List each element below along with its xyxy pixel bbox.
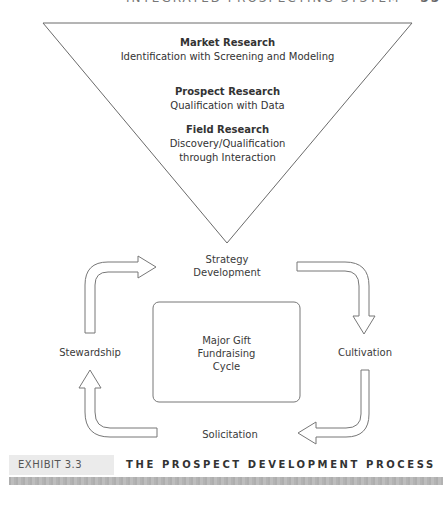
funnel-stage-prospect-research: Prospect Research Qualification with Dat… xyxy=(70,85,385,113)
step-stewardship: Stewardship xyxy=(50,346,130,359)
funnel-stage-subtitle: Discovery/Qualification xyxy=(70,137,385,151)
funnel-stage-field-research: Field Research Discovery/Qualification t… xyxy=(70,123,385,165)
step-label-line: Stewardship xyxy=(50,346,130,359)
funnel-stage-title: Prospect Research xyxy=(70,85,385,99)
center-label-line: Major Gift xyxy=(153,334,300,347)
step-solicitation: Solicitation xyxy=(190,428,270,441)
arrow-solicitation-to-stewardship xyxy=(79,370,157,437)
step-label-line: Strategy xyxy=(177,253,277,266)
step-cultivation: Cultivation xyxy=(325,346,405,359)
cycle-center-label: Major Gift Fundraising Cycle xyxy=(153,334,300,373)
step-label-line: Development xyxy=(177,266,277,279)
arrow-stewardship-to-strategy xyxy=(85,256,156,333)
funnel-stage-market-research: Market Research Identification with Scre… xyxy=(70,36,385,64)
funnel-stage-subtitle: through Interaction xyxy=(70,151,385,165)
exhibit-rule xyxy=(9,477,443,485)
step-label-line: Cultivation xyxy=(325,346,405,359)
funnel-stage-subtitle: Qualification with Data xyxy=(70,99,385,113)
center-label-line: Cycle xyxy=(153,360,300,373)
arrow-cultivation-to-solicitation xyxy=(298,370,369,444)
funnel-stage-subtitle: Identification with Screening and Modeli… xyxy=(70,50,385,64)
exhibit-label: EXHIBIT 3.3 xyxy=(9,455,114,475)
step-strategy-development: Strategy Development xyxy=(177,253,277,279)
funnel-stage-title: Field Research xyxy=(70,123,385,137)
center-label-line: Fundraising xyxy=(153,347,300,360)
arrow-strategy-to-cultivation xyxy=(297,262,375,334)
funnel-stage-title: Market Research xyxy=(70,36,385,50)
exhibit-title: THE PROSPECT DEVELOPMENT PROCESS xyxy=(126,455,436,475)
exhibit-caption: EXHIBIT 3.3 THE PROSPECT DEVELOPMENT PRO… xyxy=(9,455,443,475)
step-label-line: Solicitation xyxy=(190,428,270,441)
